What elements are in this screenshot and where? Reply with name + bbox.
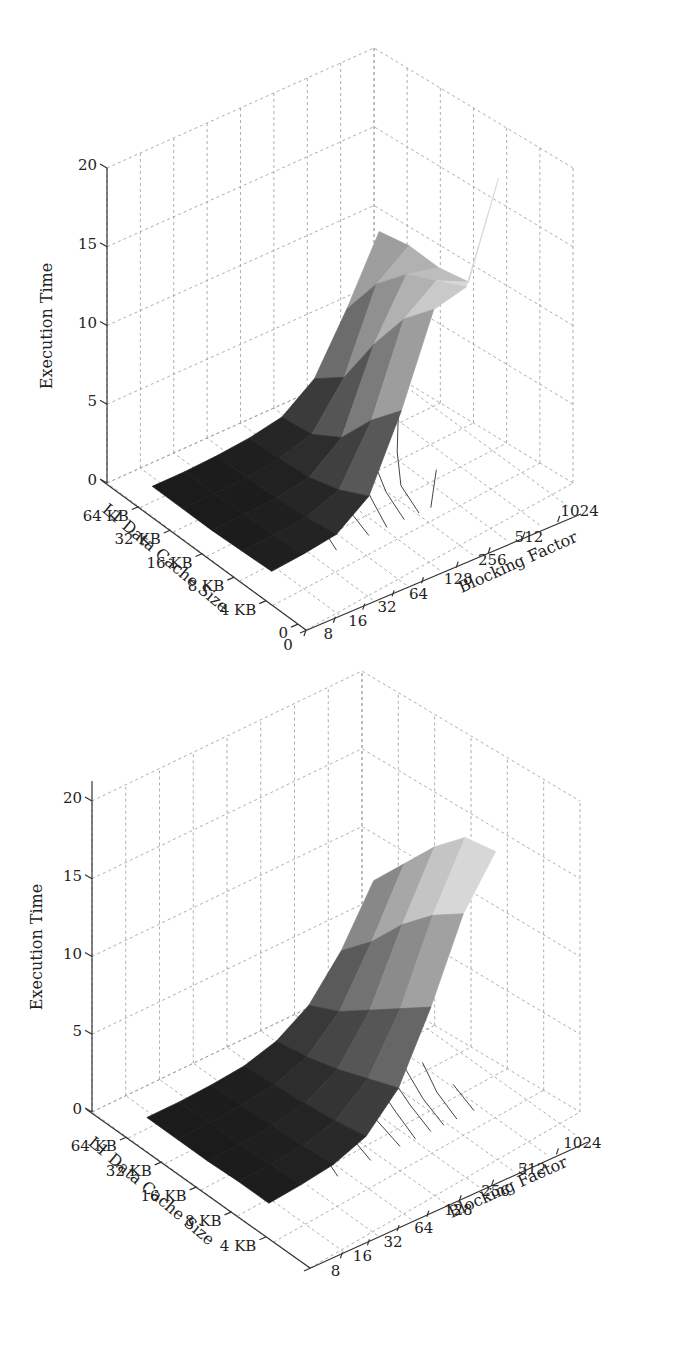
x-tick-label: 1024: [561, 502, 599, 520]
surface-plot-top: 0510152064 KB32 KB16 KB8 KB4 KB008163264…: [0, 0, 673, 660]
x-tick-label: 64: [414, 1219, 433, 1237]
z-tick-label: 15: [63, 867, 82, 885]
z-axis-title: Execution Time: [37, 263, 56, 389]
z-tick-label: 20: [78, 156, 97, 174]
x-tick-label: 16: [348, 612, 367, 630]
z-tick-label: 15: [78, 235, 97, 253]
x-tick-label: 32: [378, 598, 397, 616]
z-tick-label: 5: [72, 1022, 82, 1040]
y-tick-label: 4 KB: [220, 1237, 257, 1255]
x-tick-label: 8: [324, 625, 334, 643]
execution-time-surface-chart-bottom: 0510152064 KB32 KB16 KB8 KB4 KB816326412…: [0, 660, 673, 1345]
x-tick-label: 64: [409, 585, 428, 603]
x-tick-label: 1024: [563, 1134, 601, 1152]
x-axis-title: Blocking Factor: [445, 1152, 570, 1222]
execution-time-surface-chart-top: 0510152064 KB32 KB16 KB8 KB4 KB008163264…: [0, 0, 673, 660]
x-tick-label: 8: [331, 1262, 341, 1280]
z-tick-label: 5: [87, 392, 97, 410]
z-tick-label: 0: [87, 471, 97, 489]
z-tick-label: 20: [63, 789, 82, 807]
z-tick-label: 0: [72, 1100, 82, 1118]
x-tick-label: 16: [353, 1247, 372, 1265]
surface-plot-bottom: 0510152064 KB32 KB16 KB8 KB4 KB816326412…: [0, 660, 673, 1345]
z-tick-label: 10: [63, 945, 82, 963]
x-tick-label: 32: [384, 1233, 403, 1251]
surface: [147, 837, 496, 1203]
x-tick-label: 0: [283, 636, 293, 654]
surface: [152, 178, 498, 571]
z-axis-title: Execution Time: [27, 884, 46, 1010]
z-tick-label: 10: [78, 314, 97, 332]
